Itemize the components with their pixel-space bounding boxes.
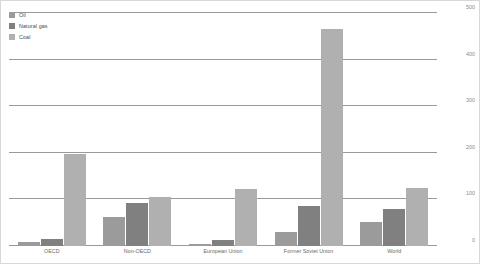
x-axis-tick-label: World — [351, 247, 437, 259]
bar-coal[interactable] — [235, 189, 257, 246]
bar-coal[interactable] — [406, 188, 428, 246]
legend-swatch-oil — [9, 12, 15, 18]
plot-area — [9, 13, 437, 246]
legend-swatch-natural-gas — [9, 23, 15, 29]
legend-label-natural-gas: Natural gas — [19, 23, 48, 29]
y-axis: 0100200300400500 — [439, 13, 475, 246]
bar-group — [9, 13, 95, 246]
x-axis-tick-label: European Union — [180, 247, 266, 259]
bar-natural-gas[interactable] — [383, 209, 405, 246]
legend-swatch-coal — [9, 34, 15, 40]
bar-group — [351, 13, 437, 246]
bar-group — [180, 13, 266, 246]
bar-oil[interactable] — [18, 242, 40, 246]
bar-coal[interactable] — [149, 197, 171, 246]
legend-item-oil: Oil — [9, 10, 48, 20]
y-axis-tick-label: 100 — [466, 190, 475, 196]
legend-label-oil: Oil — [19, 12, 26, 18]
legend-item-natural-gas: Natural gas — [9, 21, 48, 31]
bar-group — [266, 13, 352, 246]
bar-natural-gas[interactable] — [41, 239, 63, 246]
y-axis-tick-label: 300 — [466, 97, 475, 103]
y-axis-tick-label: 0 — [472, 237, 475, 243]
bar-oil[interactable] — [103, 217, 125, 246]
chart-legend: Oil Natural gas Coal — [9, 10, 48, 43]
bar-oil[interactable] — [360, 222, 382, 246]
y-axis-tick-label: 400 — [466, 51, 475, 57]
bar-natural-gas[interactable] — [298, 206, 320, 246]
x-axis: OECDNon-OECDEuropean UnionFormer Soviet … — [9, 247, 437, 259]
y-axis-tick-label: 500 — [466, 4, 475, 10]
bar-chart: Oil Natural gas Coal 0100200300400500 OE… — [0, 0, 480, 264]
bar-oil[interactable] — [189, 244, 211, 246]
x-axis-tick-label: Former Soviet Union — [266, 247, 352, 259]
y-axis-tick-label: 200 — [466, 144, 475, 150]
bar-group — [95, 13, 181, 246]
bar-coal[interactable] — [321, 29, 343, 246]
legend-label-coal: Coal — [19, 34, 31, 40]
bar-natural-gas[interactable] — [212, 240, 234, 246]
x-axis-tick-label: Non-OECD — [95, 247, 181, 259]
x-axis-tick-label: OECD — [9, 247, 95, 259]
bar-oil[interactable] — [275, 232, 297, 246]
legend-item-coal: Coal — [9, 32, 48, 42]
bar-groups — [9, 13, 437, 246]
bar-coal[interactable] — [64, 154, 86, 246]
bar-natural-gas[interactable] — [126, 203, 148, 246]
